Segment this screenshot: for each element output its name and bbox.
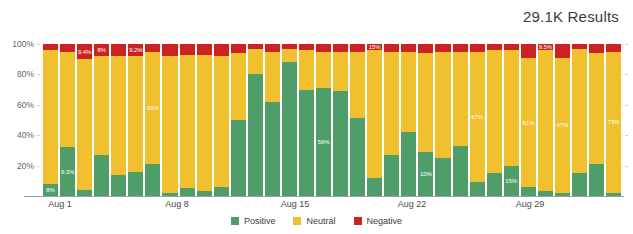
bar-segment-neutral[interactable] bbox=[111, 56, 126, 175]
legend-item-neutral[interactable]: Neutral bbox=[293, 216, 335, 226]
bar-segment-neutral[interactable] bbox=[401, 52, 416, 133]
bar-column[interactable] bbox=[434, 44, 451, 196]
bar-column[interactable] bbox=[349, 44, 366, 196]
bar-segment-negative[interactable] bbox=[435, 44, 450, 52]
bar-segment-negative[interactable] bbox=[162, 44, 177, 56]
bar-segment-neutral[interactable] bbox=[282, 49, 297, 63]
bar-column[interactable] bbox=[247, 44, 264, 196]
bar-segment-neutral[interactable] bbox=[214, 56, 229, 187]
bar-segment-negative[interactable] bbox=[231, 44, 246, 53]
bar-column[interactable]: 15% bbox=[503, 44, 520, 196]
bar-column[interactable]: 15% bbox=[366, 44, 383, 196]
bar-segment-positive[interactable] bbox=[555, 193, 570, 196]
bar-column[interactable]: 8% bbox=[42, 44, 59, 196]
bar-segment-positive[interactable] bbox=[401, 132, 416, 196]
bar-segment-negative[interactable]: 9.4% bbox=[77, 44, 92, 59]
bar-segment-positive[interactable] bbox=[367, 178, 382, 196]
bar-segment-neutral[interactable] bbox=[487, 50, 502, 173]
bar-segment-negative[interactable] bbox=[60, 44, 75, 52]
bar-segment-neutral[interactable]: 73% bbox=[606, 52, 621, 193]
bar-segment-negative[interactable] bbox=[453, 44, 468, 52]
bar-segment-positive[interactable] bbox=[282, 62, 297, 196]
bar-segment-neutral[interactable] bbox=[43, 50, 58, 184]
bar-segment-neutral[interactable] bbox=[350, 52, 365, 119]
bar-segment-positive[interactable] bbox=[350, 118, 365, 196]
bar-segment-positive[interactable] bbox=[470, 182, 485, 196]
bar-column[interactable]: 9.4% bbox=[76, 44, 93, 196]
bar-segment-negative[interactable] bbox=[589, 44, 604, 53]
bar-segment-positive[interactable] bbox=[435, 158, 450, 196]
bar-segment-neutral[interactable] bbox=[162, 56, 177, 193]
bar-segment-positive[interactable] bbox=[94, 155, 109, 196]
bar-segment-neutral[interactable]: 67% bbox=[470, 52, 485, 183]
bar-column[interactable]: 9.3% bbox=[59, 44, 76, 196]
bar-segment-neutral[interactable]: 65% bbox=[145, 52, 160, 164]
bar-segment-negative[interactable] bbox=[418, 44, 433, 53]
bar-segment-negative[interactable] bbox=[316, 44, 331, 52]
bar-column[interactable]: 56% bbox=[315, 44, 332, 196]
bar-segment-positive[interactable]: 9.3% bbox=[60, 147, 75, 196]
bar-segment-negative[interactable] bbox=[214, 44, 229, 56]
bar-segment-positive[interactable]: 56% bbox=[316, 88, 331, 196]
bar-column[interactable] bbox=[571, 44, 588, 196]
bar-segment-positive[interactable]: 15% bbox=[504, 166, 519, 196]
bar-segment-positive[interactable] bbox=[231, 120, 246, 196]
bar-column[interactable] bbox=[486, 44, 503, 196]
bar-column[interactable] bbox=[196, 44, 213, 196]
bar-segment-neutral[interactable] bbox=[333, 52, 348, 92]
bar-segment-positive[interactable] bbox=[145, 164, 160, 196]
bar-segment-negative[interactable]: 8% bbox=[94, 44, 109, 56]
bar-segment-neutral[interactable] bbox=[128, 56, 143, 172]
bar-segment-neutral[interactable] bbox=[248, 49, 263, 75]
bar-segment-neutral[interactable]: 47% bbox=[555, 58, 570, 193]
bar-segment-positive[interactable] bbox=[606, 193, 621, 196]
bar-column[interactable] bbox=[281, 44, 298, 196]
bar-segment-negative[interactable] bbox=[606, 44, 621, 52]
bar-segment-positive[interactable] bbox=[299, 90, 314, 196]
bar-column[interactable]: 61% bbox=[520, 44, 537, 196]
bar-segment-negative[interactable] bbox=[180, 44, 195, 55]
bar-segment-negative[interactable] bbox=[401, 44, 416, 52]
bar-segment-neutral[interactable] bbox=[538, 50, 553, 191]
bar-segment-neutral[interactable] bbox=[384, 52, 399, 155]
bar-segment-negative[interactable] bbox=[265, 44, 280, 52]
bar-segment-neutral[interactable] bbox=[504, 50, 519, 166]
bar-segment-neutral[interactable] bbox=[367, 50, 382, 178]
bar-segment-negative[interactable] bbox=[384, 44, 399, 52]
bar-segment-positive[interactable] bbox=[77, 190, 92, 196]
bar-column[interactable] bbox=[179, 44, 196, 196]
bar-column[interactable] bbox=[264, 44, 281, 196]
bar-segment-negative[interactable] bbox=[111, 44, 126, 56]
bar-column[interactable]: 9.5% bbox=[537, 44, 554, 196]
bar-segment-positive[interactable] bbox=[128, 172, 143, 196]
bar-segment-negative[interactable] bbox=[145, 44, 160, 52]
bar-segment-positive[interactable] bbox=[538, 191, 553, 196]
bar-column[interactable] bbox=[332, 44, 349, 196]
bar-column[interactable]: 9.2% bbox=[127, 44, 144, 196]
bar-column[interactable] bbox=[213, 44, 230, 196]
bar-segment-neutral[interactable] bbox=[435, 52, 450, 158]
bar-segment-positive[interactable] bbox=[248, 74, 263, 196]
bar-column[interactable]: 8% bbox=[93, 44, 110, 196]
bar-column[interactable] bbox=[400, 44, 417, 196]
bar-column[interactable]: 47% bbox=[554, 44, 571, 196]
bar-segment-positive[interactable] bbox=[589, 164, 604, 196]
bar-segment-neutral[interactable] bbox=[572, 49, 587, 174]
bar-segment-positive[interactable]: 8% bbox=[43, 184, 58, 196]
bar-segment-neutral[interactable] bbox=[231, 53, 246, 120]
bar-column[interactable]: 10% bbox=[417, 44, 434, 196]
bar-column[interactable] bbox=[230, 44, 247, 196]
bar-column[interactable] bbox=[452, 44, 469, 196]
bar-segment-positive[interactable] bbox=[384, 155, 399, 196]
bar-segment-positive[interactable] bbox=[487, 173, 502, 196]
bar-segment-positive[interactable] bbox=[162, 193, 177, 196]
bar-segment-negative[interactable] bbox=[470, 44, 485, 52]
bar-segment-positive[interactable] bbox=[521, 187, 536, 196]
bar-column[interactable] bbox=[298, 44, 315, 196]
bar-segment-neutral[interactable] bbox=[418, 53, 433, 152]
bar-segment-positive[interactable] bbox=[453, 146, 468, 196]
bar-segment-positive[interactable] bbox=[333, 91, 348, 196]
bar-segment-neutral[interactable]: 61% bbox=[521, 58, 536, 187]
bar-segment-neutral[interactable] bbox=[589, 53, 604, 164]
bar-segment-positive[interactable] bbox=[265, 102, 280, 196]
